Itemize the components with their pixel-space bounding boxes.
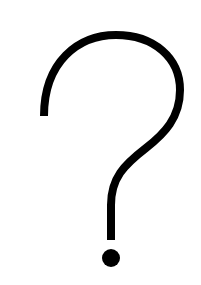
question-mark-hook [44,35,180,240]
question-mark-dot [102,249,120,267]
question-mark-graphic: ? [0,0,201,285]
question-mark-icon [0,0,201,285]
